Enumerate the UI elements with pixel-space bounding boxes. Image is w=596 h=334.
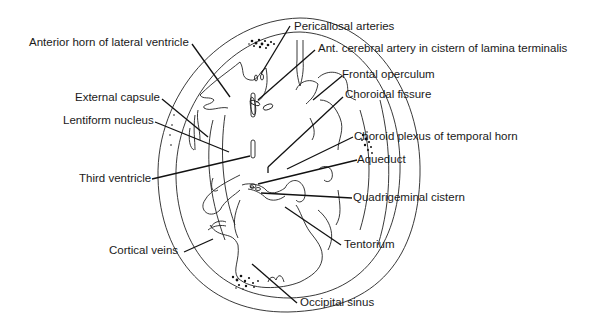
label-aqueduct: Aqueduct <box>357 154 406 166</box>
label-third-ventricle: Third ventricle <box>79 173 151 185</box>
label-choroid-plexus: Choroid plexus of temporal horn <box>354 131 518 143</box>
label-lentiform-nucleus: Lentiform nucleus <box>63 115 154 127</box>
label-frontal-operculum: Frontal operculum <box>342 69 435 81</box>
label-anterior-horn: Anterior horn of lateral ventricle <box>29 37 189 49</box>
label-tentorium: Tentorium <box>344 239 395 251</box>
label-quadrigeminal-cistern: Quadrigeminal cistern <box>353 192 465 204</box>
label-external-capsule: External capsule <box>75 92 160 104</box>
brain-axial-diagram: Pericallosal arteries Anterior horn of l… <box>0 0 596 334</box>
label-ant-cerebral-artery: Ant. cerebral artery in cistern of lamin… <box>318 43 567 55</box>
label-choroidal-fissure: Choroidal fissure <box>345 89 431 101</box>
label-cortical-veins: Cortical veins <box>109 245 178 257</box>
label-pericallosal-arteries: Pericallosal arteries <box>294 21 394 33</box>
label-occipital-sinus: Occipital sinus <box>300 297 374 309</box>
